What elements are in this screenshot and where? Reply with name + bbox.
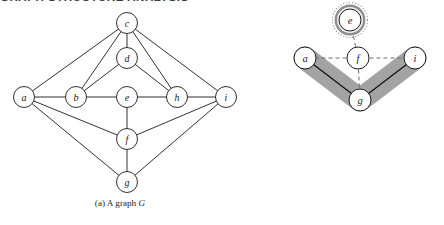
ego-node-layer: eafig xyxy=(294,3,426,112)
ego-node-f[interactable]: f xyxy=(347,47,369,69)
ego-network-canvas: eafig xyxy=(240,0,444,200)
node-label: g xyxy=(125,177,130,188)
ego-node-a[interactable]: a xyxy=(294,47,316,69)
ego-node-e[interactable]: e xyxy=(333,3,368,38)
graph-g-edge xyxy=(33,29,119,91)
graph-g-edge xyxy=(133,32,171,89)
ego-node-i[interactable]: i xyxy=(404,47,426,69)
node-label: a xyxy=(22,92,27,103)
caption-graph-g-text: (a) xyxy=(95,198,105,208)
node-label: b xyxy=(74,92,79,103)
graph-g-node-a[interactable]: a xyxy=(14,87,35,108)
figure-page: GRAPH STRUCTURE ANALYSIS abcdefghi (a) A… xyxy=(0,0,444,225)
node-label: g xyxy=(357,95,362,106)
figure-graph-g: abcdefghi (a) A graph G xyxy=(0,0,240,225)
graph-g-edge xyxy=(32,104,119,176)
ego-node-g[interactable]: g xyxy=(349,89,371,111)
graph-g-node-b[interactable]: b xyxy=(66,87,87,108)
caption-graph-g-body: A graph xyxy=(107,198,136,208)
graph-g-node-f[interactable]: f xyxy=(117,129,138,150)
graph-g-canvas: abcdefghi xyxy=(0,0,240,200)
node-label: e xyxy=(125,92,130,103)
graph-g-node-h[interactable]: h xyxy=(167,87,188,108)
node-label: e xyxy=(348,15,353,26)
graph-g-edge xyxy=(135,29,217,90)
graph-g-node-i[interactable]: i xyxy=(216,87,237,108)
node-label: h xyxy=(175,92,180,103)
node-label: c xyxy=(125,18,130,29)
caption-graph-g: (a) A graph G xyxy=(0,198,240,208)
graph-g-node-e[interactable]: e xyxy=(117,87,138,108)
figure-ego-network: eafig (a) f's ego-network xyxy=(240,0,444,225)
graph-g-edge xyxy=(135,104,218,175)
node-label: a xyxy=(302,53,307,64)
graph-g-edge xyxy=(82,32,121,89)
graph-g-node-d[interactable]: d xyxy=(117,48,138,69)
node-label: i xyxy=(414,53,417,64)
graph-g-node-g[interactable]: g xyxy=(117,172,138,193)
caption-graph-g-symbol: G xyxy=(139,198,146,208)
node-label: i xyxy=(225,92,228,103)
graph-g-node-layer: abcdefghi xyxy=(14,13,237,193)
graph-g-node-c[interactable]: c xyxy=(117,13,138,34)
